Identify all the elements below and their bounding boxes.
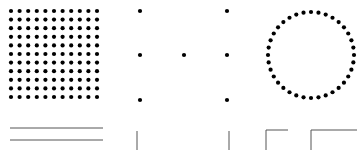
grid-dot: [9, 78, 13, 82]
grid-dot: [43, 35, 47, 39]
double-horizontal-lines: [10, 128, 103, 140]
grid-dot: [61, 43, 65, 47]
sparse-dot: [225, 98, 229, 102]
grid-dot: [69, 86, 73, 90]
grid-dot: [35, 78, 39, 82]
pattern-canvas: [0, 0, 362, 150]
grid-dot: [18, 43, 22, 47]
grid-dot: [78, 52, 82, 56]
sparse-dot: [138, 53, 142, 57]
grid-dot: [9, 69, 13, 73]
grid-dot: [35, 95, 39, 99]
grid-dot: [61, 26, 65, 30]
grid-dot: [69, 52, 73, 56]
grid-dot: [69, 69, 73, 73]
circle-dot: [349, 68, 353, 72]
grid-dot: [69, 35, 73, 39]
grid-dot: [69, 78, 73, 82]
circle-dot: [330, 16, 334, 20]
grid-dot: [35, 26, 39, 30]
grid-dot: [61, 35, 65, 39]
grid-dot: [61, 69, 65, 73]
grid-dot: [43, 43, 47, 47]
circle-dot: [316, 11, 320, 15]
circle-dot: [342, 81, 346, 85]
circle-dot: [337, 20, 341, 24]
grid-dot: [35, 86, 39, 90]
circle-dot: [281, 20, 285, 24]
grid-dot: [52, 35, 56, 39]
grid-dot: [86, 35, 90, 39]
grid-dot: [26, 95, 30, 99]
grid-dot: [95, 9, 99, 13]
grid-dot: [9, 52, 13, 56]
grid-dot: [18, 61, 22, 65]
sparse-dot: [182, 53, 186, 57]
grid-dot: [52, 95, 56, 99]
grid-dot: [61, 52, 65, 56]
circle-dot: [342, 25, 346, 29]
grid-dot: [52, 52, 56, 56]
grid-dot: [26, 61, 30, 65]
grid-dot: [78, 18, 82, 22]
sparse-dot-pattern: [138, 9, 229, 102]
circle-dot: [309, 10, 313, 14]
circle-dot: [266, 53, 270, 57]
grid-dot: [78, 43, 82, 47]
grid-dot: [69, 43, 73, 47]
grid-dot: [43, 26, 47, 30]
grid-dot: [86, 61, 90, 65]
circle-dot: [316, 95, 320, 99]
grid-dot: [78, 61, 82, 65]
grid-dot: [78, 78, 82, 82]
grid-dot: [69, 95, 73, 99]
grid-dot: [95, 78, 99, 82]
grid-dot: [86, 78, 90, 82]
grid-dot: [52, 18, 56, 22]
grid-dot: [9, 18, 13, 22]
circle-dot: [324, 93, 328, 97]
circle-dot: [337, 86, 341, 90]
grid-dot: [18, 9, 22, 13]
grid-dot: [95, 52, 99, 56]
circle-dot: [268, 38, 272, 42]
circle-dot: [294, 93, 298, 97]
grid-dot: [61, 18, 65, 22]
circle-dot: [281, 86, 285, 90]
circle-dot: [267, 45, 271, 49]
grid-dot: [43, 18, 47, 22]
grid-dot: [26, 69, 30, 73]
grid-dot: [52, 86, 56, 90]
grid-dot: [43, 78, 47, 82]
grid-dot: [18, 78, 22, 82]
grid-dot: [52, 26, 56, 30]
grid-dot: [86, 69, 90, 73]
grid-dot: [86, 95, 90, 99]
grid-dot: [86, 86, 90, 90]
grid-dot: [18, 52, 22, 56]
grid-dot: [18, 35, 22, 39]
grid-dot: [86, 52, 90, 56]
grid-dot: [35, 35, 39, 39]
circle-dot: [287, 16, 291, 20]
circle-dot: [272, 31, 276, 35]
circle-dot: [268, 68, 272, 72]
sparse-dot: [225, 9, 229, 13]
sparse-dot: [225, 53, 229, 57]
grid-dot: [52, 9, 56, 13]
grid-dot: [61, 9, 65, 13]
circle-dot: [349, 38, 353, 42]
grid-dot: [9, 61, 13, 65]
grid-dot: [95, 18, 99, 22]
grid-dot: [52, 61, 56, 65]
grid-dot: [26, 86, 30, 90]
grid-dot: [35, 18, 39, 22]
grid-dot: [86, 43, 90, 47]
grid-dot: [52, 43, 56, 47]
grid-dot: [95, 86, 99, 90]
corner-brackets: [266, 130, 357, 150]
grid-dot: [35, 69, 39, 73]
grid-dot: [18, 86, 22, 90]
circle-dot: [309, 96, 313, 100]
dot-circle: [266, 10, 356, 100]
